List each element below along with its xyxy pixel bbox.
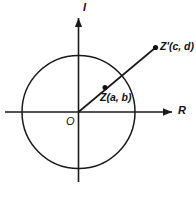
- origin-label: O: [66, 116, 75, 127]
- complex-plane-figure: I R O Z(a, b) Z'(c, d): [0, 0, 196, 197]
- point-marker-z-prime: [153, 45, 158, 50]
- real-axis-arrow-icon: [163, 108, 172, 116]
- imaginary-axis-label: I: [83, 2, 86, 13]
- point-label-z: Z(a, b): [100, 92, 132, 103]
- point-marker-z: [103, 85, 108, 90]
- imaginary-axis-arrow-icon: [75, 18, 82, 27]
- point-label-z-prime: Z'(c, d): [160, 41, 194, 52]
- real-axis-label: R: [178, 105, 186, 116]
- figure-canvas: [0, 0, 196, 197]
